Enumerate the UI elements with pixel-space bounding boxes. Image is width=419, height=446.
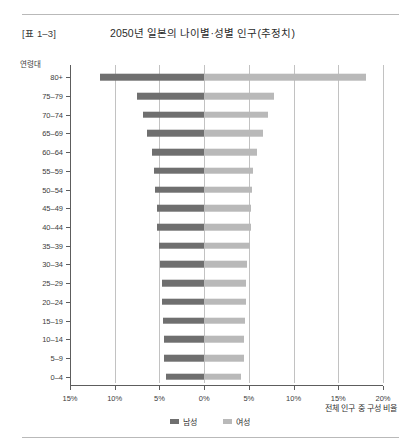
population-pyramid-plot: 15%10%5%0%5%10%15%20%80+75–7970–7465–696… (70, 68, 383, 386)
bar-male (166, 373, 204, 380)
bar-male (157, 224, 204, 231)
x-axis-tick (338, 386, 339, 390)
pyramid-row: 50–54 (70, 180, 383, 199)
y-axis-tick-label: 50–54 (42, 185, 63, 194)
x-axis-title: 전체 인구 중 구성 비율 (325, 402, 397, 413)
chart-header: [표 1–3] 2050년 일본의 나이별·성별 인구(추정치) (22, 24, 399, 44)
y-axis-tick (66, 264, 70, 265)
y-axis-tick (66, 96, 70, 97)
bar-male (137, 93, 204, 100)
chart-title: 2050년 일본의 나이별·성별 인구(추정치) (110, 25, 295, 40)
x-axis-tick (249, 386, 250, 390)
legend-label-male: 남성 (183, 416, 197, 427)
pyramid-row: 60–64 (70, 143, 383, 162)
legend-label-female: 여성 (236, 416, 250, 427)
bar-female (204, 74, 366, 81)
y-axis-tick (66, 77, 70, 78)
y-axis-tick (66, 227, 70, 228)
y-axis-tick (66, 358, 70, 359)
bar-male (164, 355, 204, 362)
pyramid-row: 45–49 (70, 199, 383, 218)
x-axis-tick-label: 10% (286, 394, 301, 403)
pyramid-row: 10–14 (70, 330, 383, 349)
bar-female (204, 205, 251, 212)
y-axis-tick-label: 10–14 (42, 335, 63, 344)
legend-item-female: 여성 (223, 416, 250, 427)
y-axis-tick-label: 45–49 (42, 204, 63, 213)
bar-male (162, 280, 204, 287)
y-axis-tick (66, 133, 70, 134)
y-axis-tick-label: 15–19 (42, 316, 63, 325)
x-axis-tick-label: 15% (62, 394, 77, 403)
bar-female (204, 242, 250, 249)
top-divider-rule (22, 14, 399, 15)
bar-female (204, 280, 246, 287)
y-axis-title: 연령대 (20, 58, 41, 69)
bar-male (147, 130, 204, 137)
bar-male (152, 149, 204, 156)
x-axis-tick-label: 5% (243, 394, 254, 403)
legend-swatch-female-icon (223, 419, 232, 424)
pyramid-row: 35–39 (70, 236, 383, 255)
y-axis-tick (66, 321, 70, 322)
y-axis-tick-label: 35–39 (42, 241, 63, 250)
bar-female (204, 186, 251, 193)
x-axis-tick (159, 386, 160, 390)
y-axis-tick-label: 30–34 (42, 260, 63, 269)
y-axis-tick-label: 80+ (50, 73, 63, 82)
bar-female (204, 168, 253, 175)
bar-male (154, 168, 204, 175)
y-axis-tick (66, 246, 70, 247)
bar-female (204, 336, 244, 343)
bar-male (157, 205, 204, 212)
bar-male (164, 336, 204, 343)
x-axis-tick (383, 386, 384, 390)
pyramid-row: 40–44 (70, 218, 383, 237)
x-axis-tick (115, 386, 116, 390)
y-axis-tick-label: 25–29 (42, 279, 63, 288)
bar-male (155, 186, 204, 193)
table-number: [표 1–3] (22, 26, 56, 40)
bar-male (163, 317, 204, 324)
y-axis-tick-label: 70–74 (42, 110, 63, 119)
y-axis-tick (66, 171, 70, 172)
pyramid-row: 20–24 (70, 292, 383, 311)
pyramid-row: 55–59 (70, 162, 383, 181)
y-axis-tick-label: 0–4 (50, 372, 63, 381)
bar-female (204, 224, 251, 231)
pyramid-row: 15–19 (70, 311, 383, 330)
pyramid-row: 65–69 (70, 124, 383, 143)
pyramid-row: 30–34 (70, 255, 383, 274)
y-axis-tick (66, 377, 70, 378)
legend-swatch-male-icon (170, 419, 179, 424)
y-axis-tick-label: 60–64 (42, 148, 63, 157)
bar-male (100, 74, 205, 81)
bar-female (204, 111, 267, 118)
x-axis-tick (70, 386, 71, 390)
bar-female (204, 317, 245, 324)
y-axis-tick-label: 20–24 (42, 297, 63, 306)
bar-male (162, 299, 204, 306)
bar-female (204, 355, 244, 362)
bar-female (204, 93, 274, 100)
y-axis-tick (66, 152, 70, 153)
x-axis-tick-label: 0% (199, 394, 210, 403)
x-axis-tick-label: 10% (107, 394, 122, 403)
pyramid-row: 5–9 (70, 349, 383, 368)
x-axis-tick (294, 386, 295, 390)
y-axis-tick (66, 190, 70, 191)
x-gridline (383, 65, 384, 383)
y-axis-tick (66, 208, 70, 209)
bar-male (143, 111, 204, 118)
bar-male (160, 261, 204, 268)
bar-female (204, 261, 247, 268)
bar-female (204, 149, 257, 156)
y-axis-tick (66, 283, 70, 284)
y-axis-tick (66, 339, 70, 340)
y-axis-tick-label: 40–44 (42, 222, 63, 231)
y-axis-tick (66, 302, 70, 303)
pyramid-row: 25–29 (70, 274, 383, 293)
pyramid-row: 0–4 (70, 367, 383, 386)
y-axis-tick (66, 115, 70, 116)
y-axis-tick-label: 55–59 (42, 166, 63, 175)
